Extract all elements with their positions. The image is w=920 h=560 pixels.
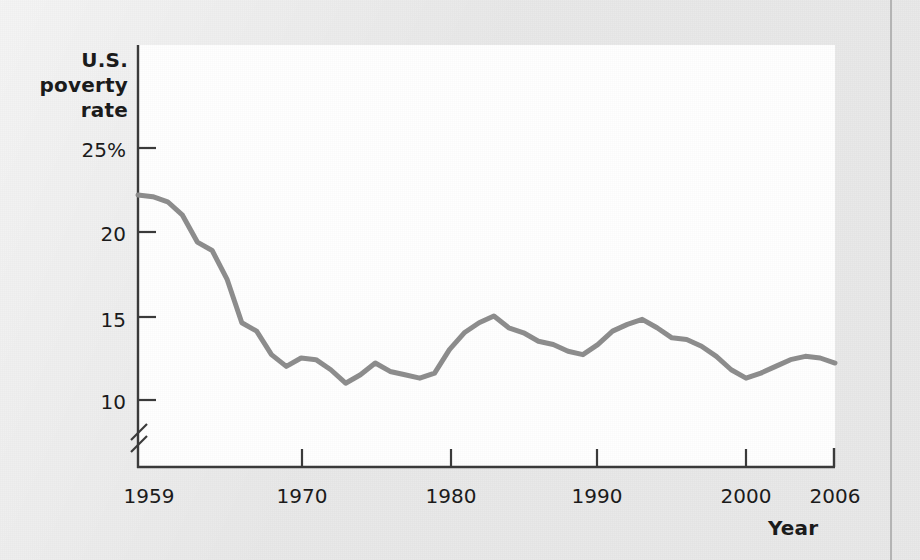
chart-svg (0, 0, 920, 560)
y-axis-ticks (138, 148, 156, 400)
poverty-rate-line (138, 195, 835, 383)
figure-page: U.S. poverty rate Year 25% 20 15 10 1959… (0, 0, 920, 560)
x-axis-ticks (302, 449, 746, 467)
